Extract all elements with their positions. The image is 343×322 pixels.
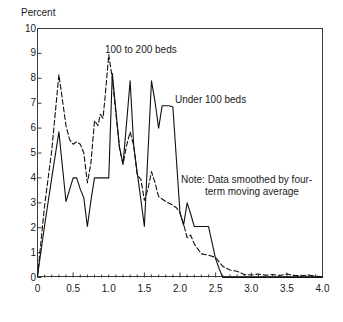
data-series-group [38,55,323,278]
series-label-100-to-200-beds: 100 to 200 beds [105,44,177,56]
axis-tick-marks [38,29,323,278]
chart-note: Note: Data smoothed by four- term moving… [181,174,329,198]
chart-note-line-2: term moving average [181,186,329,198]
chart-figure: Percent 012345678910 00.51.01.52.02.53.0… [0,0,343,322]
series-label-under-100-beds: Under 100 beds [175,94,246,106]
chart-note-line-1: Note: Data smoothed by four- [181,174,312,185]
series-path-1 [38,55,323,277]
